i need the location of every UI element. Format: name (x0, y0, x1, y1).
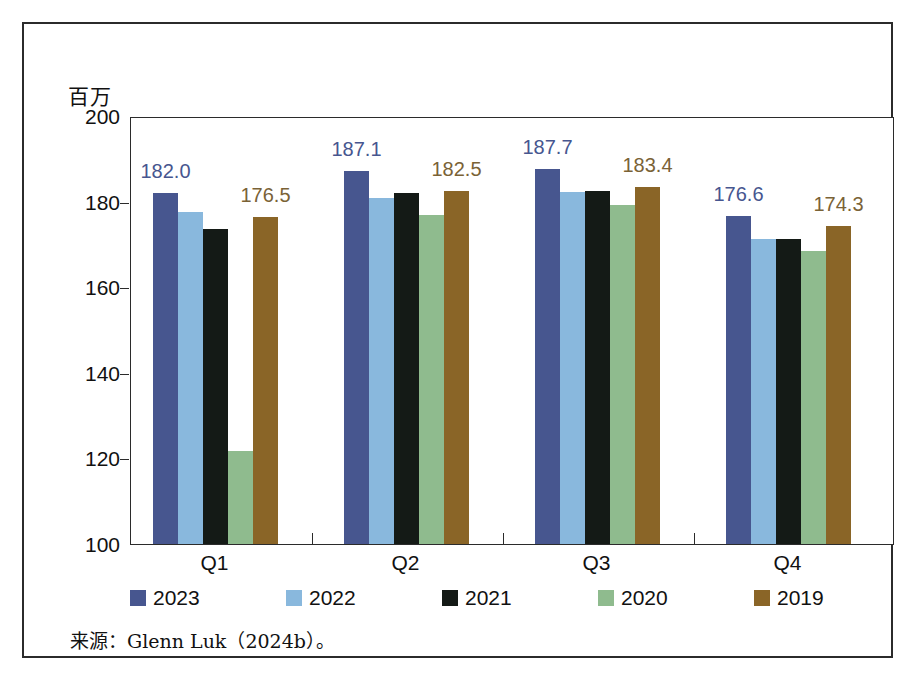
legend-swatch-icon (286, 590, 302, 606)
bar-q1-2019 (253, 217, 278, 544)
bar-q3-2020 (610, 205, 635, 544)
bar-q2-2021 (394, 193, 419, 544)
bar-value-label: 182.0 (140, 160, 190, 183)
bar-q4-2022 (751, 239, 776, 544)
bar-q3-2019 (635, 187, 660, 544)
figure-frame: 百万 100120140160180200 182.0176.5187.1182… (22, 22, 893, 658)
y-tick-mark (120, 203, 129, 204)
x-tick-label-q4: Q4 (773, 551, 801, 575)
plot-inner: 182.0176.5187.1182.5187.7183.4176.6174.3 (131, 118, 893, 544)
legend-swatch-icon (598, 590, 614, 606)
bar-q4-2021 (776, 239, 801, 544)
x-axis: Q1Q2Q3Q4 (130, 551, 894, 581)
x-separator-tick (503, 533, 504, 544)
bar-q1-2022 (178, 212, 203, 544)
bar-group-q1: 182.0176.5 (131, 118, 322, 544)
legend-label: 2022 (309, 586, 356, 610)
bar-q2-2022 (369, 198, 394, 544)
y-tick-mark (120, 374, 129, 375)
y-axis: 100120140160180200 (58, 117, 120, 545)
y-tick-label: 160 (64, 276, 120, 300)
bar-q1-2020 (228, 451, 253, 544)
x-tick-label-q3: Q3 (582, 551, 610, 575)
legend-label: 2020 (621, 586, 668, 610)
x-separator-tick (694, 533, 695, 544)
plot-area: 182.0176.5187.1182.5187.7183.4176.6174.3 (130, 117, 894, 545)
legend-swatch-icon (442, 590, 458, 606)
bar-value-label: 182.5 (431, 158, 481, 181)
legend-swatch-icon (130, 590, 146, 606)
legend-label: 2021 (465, 586, 512, 610)
y-tick-label: 120 (64, 447, 120, 471)
bar-q2-2020 (419, 215, 444, 544)
legend-item-2021[interactable]: 2021 (442, 586, 512, 610)
bar-group-q2: 187.1182.5 (322, 118, 513, 544)
y-tick-label: 100 (64, 533, 120, 557)
bar-value-label: 174.3 (813, 193, 863, 216)
bar-q3-2022 (560, 192, 585, 544)
chart-legend: 20232022202120202019 (130, 586, 900, 614)
bar-value-label: 187.1 (331, 138, 381, 161)
y-tick-label: 180 (64, 191, 120, 215)
bar-q3-2021 (585, 191, 610, 544)
y-tick-mark (120, 459, 129, 460)
bar-q2-2023 (344, 171, 369, 544)
source-note: 来源：Glenn Luk（2024b）。 (70, 626, 335, 653)
bar-q4-2019 (826, 226, 851, 544)
x-tick-label-q1: Q1 (200, 551, 228, 575)
bar-value-label: 176.6 (713, 183, 763, 206)
legend-item-2022[interactable]: 2022 (286, 586, 356, 610)
legend-label: 2019 (777, 586, 824, 610)
bar-q4-2023 (726, 216, 751, 544)
y-tick-label: 200 (64, 105, 120, 129)
bar-group-q3: 187.7183.4 (513, 118, 704, 544)
x-separator-tick (312, 533, 313, 544)
y-tick-mark (120, 288, 129, 289)
bar-value-label: 176.5 (240, 184, 290, 207)
bar-value-label: 183.4 (622, 154, 672, 177)
legend-item-2019[interactable]: 2019 (754, 586, 824, 610)
legend-item-2020[interactable]: 2020 (598, 586, 668, 610)
bar-q1-2023 (153, 193, 178, 544)
legend-swatch-icon (754, 590, 770, 606)
bar-q2-2019 (444, 191, 469, 544)
legend-label: 2023 (153, 586, 200, 610)
bar-q1-2021 (203, 229, 228, 544)
bar-q3-2023 (535, 169, 560, 544)
x-tick-label-q2: Q2 (391, 551, 419, 575)
bar-group-q4: 176.6174.3 (704, 118, 895, 544)
bar-q4-2020 (801, 251, 826, 544)
bar-value-label: 187.7 (522, 136, 572, 159)
y-tick-label: 140 (64, 362, 120, 386)
legend-item-2023[interactable]: 2023 (130, 586, 200, 610)
